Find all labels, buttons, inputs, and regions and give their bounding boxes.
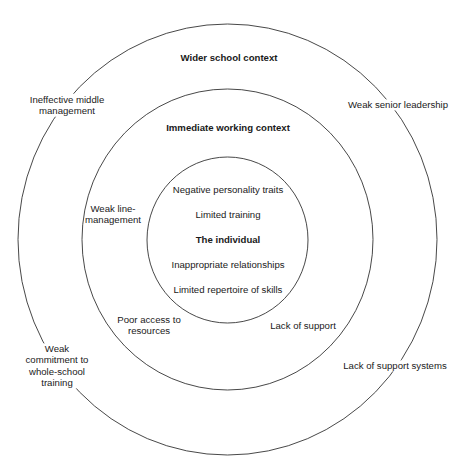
factor-inappropriate-relationships: Inappropriate relationships bbox=[170, 259, 285, 270]
factor-lack-of-support-systems: Lack of support systems bbox=[342, 360, 447, 371]
factor-line: Ineffective middle bbox=[30, 94, 104, 105]
outer-ring-title: Wider school context bbox=[180, 52, 279, 63]
factor-weak-line-management: Weak line- management bbox=[84, 203, 142, 226]
factor-limited-training: Limited training bbox=[194, 209, 261, 220]
factor-line: commitment to bbox=[26, 355, 89, 366]
factor-weak-commitment-training: Weak commitment to whole-school training bbox=[25, 343, 90, 388]
factor-weak-senior-leadership: Weak senior leadership bbox=[347, 99, 449, 110]
factor-line: Weak bbox=[26, 343, 89, 354]
inner-ring-title: The individual bbox=[195, 234, 262, 245]
factor-line: whole-school bbox=[26, 366, 89, 377]
factor-line: training bbox=[26, 377, 89, 388]
factor-line: Poor access to bbox=[117, 314, 180, 325]
factor-limited-repertoire-of-skills: Limited repertoire of skills bbox=[173, 284, 284, 295]
middle-ring-title: Immediate working context bbox=[165, 122, 291, 133]
factor-ineffective-middle-management: Ineffective middle management bbox=[29, 94, 105, 117]
factor-line: resources bbox=[117, 325, 180, 336]
factor-poor-access-to-resources: Poor access to resources bbox=[116, 314, 181, 337]
factor-negative-personality-traits: Negative personality traits bbox=[172, 184, 284, 195]
factor-lack-of-support: Lack of support bbox=[269, 320, 337, 331]
factor-line: management bbox=[30, 105, 104, 116]
factor-line: Lack of support systems bbox=[343, 360, 446, 371]
factor-line: Lack of support bbox=[270, 320, 336, 331]
factor-line: Weak line- bbox=[85, 203, 141, 214]
factor-line: management bbox=[85, 214, 141, 225]
factor-line: Weak senior leadership bbox=[348, 99, 448, 110]
